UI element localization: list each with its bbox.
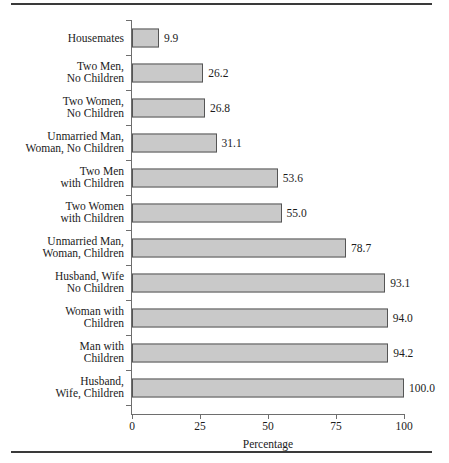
y-axis-tick — [126, 125, 131, 126]
bar — [132, 343, 388, 362]
y-axis-tick — [126, 300, 131, 301]
bar-value-label: 93.1 — [390, 277, 410, 289]
bar-row: Man with Children94.2 — [0, 335, 449, 370]
bar — [132, 308, 388, 327]
bar — [132, 98, 205, 117]
category-label: Husband, Wife No Children — [0, 270, 124, 295]
y-axis-tick — [126, 20, 131, 21]
x-axis-tick-label: 0 — [129, 420, 135, 432]
category-label: Man with Children — [0, 340, 124, 365]
x-axis-title: Percentage — [131, 438, 405, 450]
bar-row: Husband, Wife, Children100.0 — [0, 370, 449, 405]
y-axis-tick — [126, 405, 131, 406]
x-axis-tick-label: 75 — [330, 420, 342, 432]
x-axis-tick-label: 50 — [262, 420, 274, 432]
bar-value-label: 53.6 — [283, 172, 303, 184]
bar — [132, 168, 278, 187]
plot-area: Housemates9.9Two Men, No Children26.2Two… — [0, 14, 449, 414]
y-axis-tick — [126, 335, 131, 336]
bar — [132, 133, 217, 152]
bottom-rule — [11, 451, 432, 453]
category-label: Husband, Wife, Children — [0, 375, 124, 400]
bar — [132, 238, 346, 257]
bar — [132, 273, 385, 292]
bar — [132, 28, 159, 47]
category-label: Housemates — [0, 31, 124, 44]
y-axis-tick — [126, 160, 131, 161]
bar-row: Unmarried Man, Woman, Children78.7 — [0, 230, 449, 265]
bar-value-label: 55.0 — [287, 207, 307, 219]
y-axis-tick — [126, 370, 131, 371]
x-axis-tick — [200, 414, 201, 419]
bar-row: Two Women with Children55.0 — [0, 195, 449, 230]
bar-row: Two Men, No Children26.2 — [0, 55, 449, 90]
bar-value-label: 31.1 — [222, 137, 242, 149]
x-axis-tick-label: 100 — [395, 420, 412, 432]
bar — [132, 203, 282, 222]
bar-value-label: 94.0 — [393, 312, 413, 324]
bar — [132, 378, 404, 397]
bar-value-label: 9.9 — [164, 32, 178, 44]
bar-value-label: 100.0 — [409, 382, 435, 394]
bar-value-label: 26.2 — [208, 67, 228, 79]
category-label: Unmarried Man, Woman, No Children — [0, 130, 124, 155]
bar-row: Housemates9.9 — [0, 20, 449, 55]
bar-row: Unmarried Man, Woman, No Children31.1 — [0, 125, 449, 160]
category-label: Two Men with Children — [0, 165, 124, 190]
y-axis-tick — [126, 230, 131, 231]
x-axis-tick — [404, 414, 405, 419]
y-axis-tick — [126, 265, 131, 266]
category-label: Woman with Children — [0, 305, 124, 330]
figure: Housemates9.9Two Men, No Children26.2Two… — [0, 0, 449, 463]
top-rule — [11, 3, 432, 5]
bar-row: Two Women, No Children26.8 — [0, 90, 449, 125]
y-axis-tick — [126, 90, 131, 91]
bar-value-label: 94.2 — [393, 347, 413, 359]
x-axis-tick — [268, 414, 269, 419]
bar-row: Woman with Children94.0 — [0, 300, 449, 335]
bar-value-label: 26.8 — [210, 102, 230, 114]
x-axis-tick-label: 25 — [194, 420, 206, 432]
bar — [132, 63, 203, 82]
y-axis-tick — [126, 55, 131, 56]
category-label: Two Women, No Children — [0, 95, 124, 120]
bar-value-label: 78.7 — [351, 242, 371, 254]
x-axis-tick — [132, 414, 133, 419]
bar-row: Two Men with Children53.6 — [0, 160, 449, 195]
bar-row: Husband, Wife No Children93.1 — [0, 265, 449, 300]
category-label: Unmarried Man, Woman, Children — [0, 235, 124, 260]
category-label: Two Women with Children — [0, 200, 124, 225]
y-axis-tick — [126, 195, 131, 196]
category-label: Two Men, No Children — [0, 60, 124, 85]
x-axis-tick — [336, 414, 337, 419]
